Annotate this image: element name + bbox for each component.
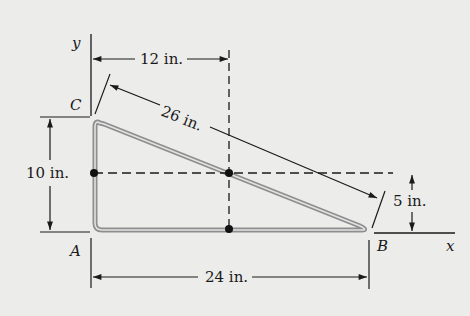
left-midpoint [90,169,98,177]
dim-26-arrow-upper [110,85,160,105]
point-c-label: C [70,96,82,114]
x-axis-label: x [446,237,455,255]
base-midpoint [225,225,233,233]
dim-24-label: 24 in. [205,268,248,286]
dim-12-label: 12 in. [140,50,183,68]
centroid-point [225,169,233,177]
dim-5-label: 5 in. [393,192,427,210]
dim-26-label: 26 in. [159,102,206,135]
point-b-label: B [376,237,388,255]
dim-10-label: 10 in. [26,164,69,182]
point-a-label: A [68,242,81,260]
dim-26-arrow-lower [210,127,377,198]
triangle-rod-diagram: y x 12 in. 26 in. C A B 10 in. 5 in. 24 … [0,0,470,316]
y-axis-label: y [71,34,81,52]
ext-line-c [95,74,110,114]
